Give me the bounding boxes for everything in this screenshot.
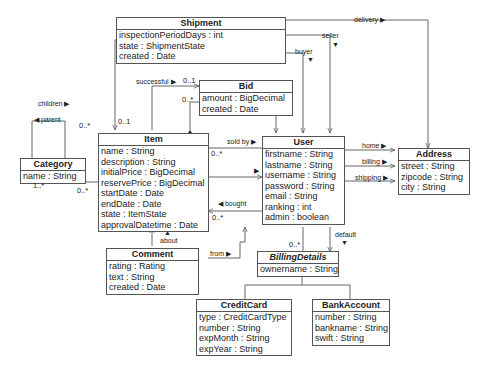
class-name: User	[263, 137, 344, 149]
attribute: number : String	[199, 323, 289, 334]
buyer-arrow-icon: ▼	[307, 56, 314, 64]
default-arrow-icon: ▼	[341, 239, 348, 247]
about-arrow-icon: ▲	[164, 229, 171, 237]
attribute: startDate : Date	[101, 188, 206, 199]
attribute: initialPrice : BigDecimal	[101, 167, 206, 178]
mult-billing: 0..*	[289, 241, 300, 249]
class-item: Item name : String description : String …	[98, 133, 209, 232]
class-bank-account: BankAccount number : String bankname : S…	[312, 299, 390, 346]
attribute: created : Date	[119, 51, 283, 62]
attribute: reservePrice : BigDecimal	[101, 178, 206, 189]
attribute: street : String	[401, 161, 467, 172]
label-shipping: shipping ▶	[355, 174, 388, 182]
mult-bought: 0..*	[212, 214, 223, 222]
attribute: number : String	[315, 312, 387, 323]
label-children: children ▶	[38, 100, 69, 108]
attribute: type : CreditCardType	[199, 312, 289, 323]
attribute: text : String	[109, 272, 196, 283]
attribute: ownername : String	[260, 264, 336, 275]
class-user: User firstname : String lastname : Strin…	[262, 136, 345, 225]
label-seller: seller	[322, 32, 339, 40]
class-name: CreditCard	[197, 300, 291, 312]
mult-category-one: 1..*	[33, 182, 44, 190]
label-home: home ▶	[362, 142, 386, 150]
label-from: from ▶	[210, 250, 231, 258]
class-name: Item	[99, 134, 208, 146]
class-shipment: Shipment inspectionPeriodDays : int stat…	[116, 17, 286, 64]
mult-category-item: 0..*	[77, 187, 88, 195]
class-name: BillingDetails	[258, 252, 338, 264]
attribute: amount : BigDecimal	[202, 93, 290, 104]
label-billing: billing ▶	[362, 158, 387, 166]
mult-sold-by: 0..*	[211, 150, 222, 158]
label-about: about	[160, 237, 178, 245]
class-name: BankAccount	[313, 300, 389, 312]
label-sold-by: sold by ▶	[227, 138, 256, 146]
attribute: zipcode : String	[401, 172, 467, 183]
attribute: created : Date	[202, 104, 290, 115]
label-parent: ◀ parent	[34, 116, 61, 124]
attribute: swift : String	[315, 333, 387, 344]
class-billing-details: BillingDetails ownername : String	[257, 251, 339, 277]
class-name: Address	[399, 149, 469, 161]
user-item-arrow-icon: ▶	[254, 167, 259, 175]
attribute: city : String	[401, 182, 467, 193]
class-name: Comment	[107, 249, 198, 261]
label-default: default	[335, 231, 356, 239]
mult-bid: 0..*	[182, 96, 193, 104]
label-delivery: delivery ▶	[354, 16, 385, 24]
attribute: ranking : int	[265, 202, 342, 213]
mult-children: 0..*	[79, 122, 90, 130]
attribute: firstname : String	[265, 149, 342, 160]
label-successful: successful ▶	[136, 78, 176, 86]
class-name: Shipment	[117, 18, 285, 30]
attribute: lastname : String	[265, 160, 342, 171]
attribute: admin : boolean	[265, 212, 342, 223]
class-name: Category	[21, 159, 85, 171]
label-buyer: buyer	[295, 48, 313, 56]
class-bid: Bid amount : BigDecimal created : Date	[199, 80, 293, 116]
attribute: password : String	[265, 181, 342, 192]
label-bought: ◀ bought	[218, 200, 246, 208]
attribute: state : ShipmentState	[119, 41, 283, 52]
mult-successful: 0..1	[183, 77, 196, 85]
attribute: approvalDatetime : Date	[101, 220, 206, 231]
attribute: state : ItemState	[101, 209, 206, 220]
attribute: rating : Rating	[109, 261, 196, 272]
class-category: Category name : String	[20, 158, 86, 184]
attribute: email : String	[265, 191, 342, 202]
class-name: Bid	[200, 81, 292, 93]
attribute: description : String	[101, 157, 206, 168]
attribute: name : String	[23, 171, 83, 182]
seller-arrow-icon: ▼	[332, 41, 339, 49]
attribute: bankname : String	[315, 323, 387, 334]
attribute: username : String	[265, 170, 342, 181]
class-address: Address street : String zipcode : String…	[398, 148, 470, 195]
attribute: created : Date	[109, 282, 196, 293]
mult-shipment-item: 0..1	[118, 118, 131, 126]
attribute: inspectionPeriodDays : int	[119, 30, 283, 41]
attribute: endDate : Date	[101, 199, 206, 210]
attribute: name : String	[101, 146, 206, 157]
class-credit-card: CreditCard type : CreditCardType number …	[196, 299, 292, 356]
attribute: expYear : String	[199, 344, 289, 355]
class-comment: Comment rating : Rating text : String cr…	[106, 248, 199, 295]
attribute: expMonth : String	[199, 333, 289, 344]
